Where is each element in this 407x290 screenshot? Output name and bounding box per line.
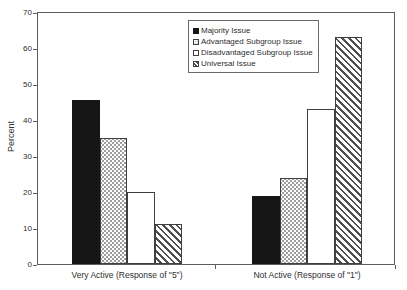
y-tick-mark-10: [33, 229, 37, 230]
bar-advantaged-subgroup-issue-very-active-response-of-5: [100, 138, 128, 264]
y-tick-label-50: 50: [0, 80, 32, 90]
legend-label-majority-issue: Majority Issue: [201, 26, 250, 36]
legend-item-disadvantaged-subgroup-issue: Disadvantaged Subgroup Issue: [193, 47, 313, 58]
bar-disadvantaged-subgroup-issue-very-active-response-of-5: [127, 192, 155, 264]
y-tick-mark-30: [33, 157, 37, 158]
y-tick-mark-50: [33, 85, 37, 86]
legend-label-advantaged-subgroup-issue: Advantaged Subgroup Issue: [201, 37, 302, 47]
legend-item-majority-issue: Majority Issue: [193, 25, 313, 36]
x-tick-mark-1: [395, 265, 396, 269]
legend: Majority IssueAdvantaged Subgroup IssueD…: [188, 20, 319, 73]
y-tick-label-30: 30: [0, 152, 32, 162]
y-tick-label-0: 0: [0, 260, 32, 270]
category-label-not-active-response-of-1: Not Active (Response of "1"): [253, 270, 360, 281]
bar-majority-issue-not-active-response-of-1: [252, 196, 280, 264]
y-tick-label-20: 20: [0, 188, 32, 198]
y-tick-mark-40: [33, 121, 37, 122]
bar-advantaged-subgroup-issue-not-active-response-of-1: [280, 178, 308, 264]
y-tick-mark-70: [33, 13, 37, 14]
legend-label-disadvantaged-subgroup-issue: Disadvantaged Subgroup Issue: [201, 48, 313, 58]
bar-majority-issue-very-active-response-of-5: [72, 100, 100, 264]
category-label-very-active-response-of-5: Very Active (Response of "5"): [72, 270, 183, 281]
y-tick-mark-60: [33, 49, 37, 50]
y-tick-mark-20: [33, 193, 37, 194]
bar-universal-issue-not-active-response-of-1: [335, 37, 363, 264]
bar-disadvantaged-subgroup-issue-not-active-response-of-1: [307, 109, 335, 264]
legend-marker-white-icon: [193, 50, 199, 56]
legend-item-advantaged-subgroup-issue: Advantaged Subgroup Issue: [193, 36, 313, 47]
y-tick-label-40: 40: [0, 116, 32, 126]
legend-marker-dots-icon: [193, 39, 199, 45]
y-tick-label-60: 60: [0, 44, 32, 54]
legend-label-universal-issue: Universal Issue: [201, 59, 256, 69]
chart: Percent 010203040506070 Very Active (Res…: [0, 0, 407, 290]
y-tick-mark-0: [33, 265, 37, 266]
legend-marker-solid-black-icon: [193, 28, 199, 34]
y-tick-label-10: 10: [0, 224, 32, 234]
x-tick-mark-0: [215, 265, 216, 269]
legend-marker-diagonal-hatch-icon: [193, 61, 199, 67]
legend-item-universal-issue: Universal Issue: [193, 58, 313, 69]
bar-universal-issue-very-active-response-of-5: [155, 224, 183, 264]
y-tick-label-70: 70: [0, 8, 32, 18]
